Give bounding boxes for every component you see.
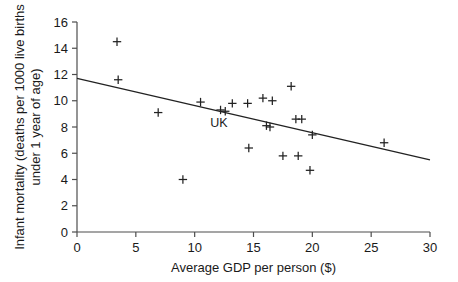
annotation-label: UK bbox=[210, 116, 228, 130]
x-axis-title: Average GDP per person ($) bbox=[171, 260, 336, 275]
y-axis: 0246810121416 bbox=[54, 15, 77, 240]
y-axis-title-line-1: Infant mortality (deaths per 1000 live b… bbox=[12, 4, 27, 250]
data-point-marker bbox=[245, 144, 253, 152]
data-point-marker bbox=[113, 37, 121, 45]
data-point-marker bbox=[228, 99, 236, 107]
chart-canvas: 0246810121416 051015202530 UK Average GD… bbox=[0, 0, 458, 282]
data-point-marker bbox=[306, 166, 314, 174]
data-points bbox=[113, 37, 389, 183]
y-tick-label: 10 bbox=[54, 93, 68, 108]
data-point-marker bbox=[216, 106, 224, 114]
x-tick-label: 30 bbox=[423, 240, 437, 255]
regression-line bbox=[77, 78, 430, 159]
data-point-marker bbox=[287, 82, 295, 90]
trend-line bbox=[77, 78, 430, 159]
x-tick-label: 25 bbox=[364, 240, 378, 255]
y-tick-label: 2 bbox=[61, 198, 68, 213]
data-point-marker bbox=[114, 76, 122, 84]
point-annotations: UK bbox=[210, 116, 228, 130]
x-tick-label: 15 bbox=[246, 240, 260, 255]
y-tick-label: 16 bbox=[54, 15, 68, 30]
data-point-marker bbox=[298, 115, 306, 123]
y-axis-title-line-2: under 1 year of age) bbox=[28, 68, 43, 185]
data-point-marker bbox=[268, 97, 276, 105]
x-axis: 051015202530 bbox=[73, 232, 437, 255]
y-tick-label: 0 bbox=[61, 225, 68, 240]
data-point-marker bbox=[154, 108, 162, 116]
data-point-marker bbox=[259, 94, 267, 102]
y-tick-label: 8 bbox=[61, 120, 68, 135]
y-tick-label: 6 bbox=[61, 146, 68, 161]
data-point-marker bbox=[380, 139, 388, 147]
x-tick-label: 5 bbox=[132, 240, 139, 255]
data-point-marker bbox=[179, 175, 187, 183]
x-tick-label: 10 bbox=[187, 240, 201, 255]
data-point-marker bbox=[243, 99, 251, 107]
scatter-chart: 0246810121416 051015202530 UK Average GD… bbox=[0, 0, 458, 282]
x-tick-label: 0 bbox=[73, 240, 80, 255]
data-point-marker bbox=[196, 98, 204, 106]
y-tick-label: 4 bbox=[61, 172, 68, 187]
y-tick-label: 12 bbox=[54, 67, 68, 82]
data-point-marker bbox=[294, 152, 302, 160]
x-tick-label: 20 bbox=[305, 240, 319, 255]
data-point-marker bbox=[221, 107, 229, 115]
data-point-marker bbox=[279, 152, 287, 160]
y-tick-label: 14 bbox=[54, 41, 68, 56]
